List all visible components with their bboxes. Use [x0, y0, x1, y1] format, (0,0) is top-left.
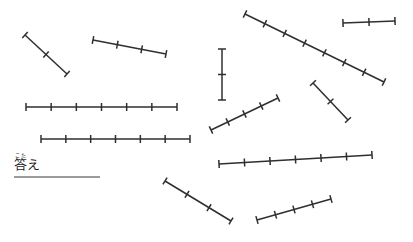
segment-interior-tick [274, 211, 276, 219]
segment-interior-tick [311, 200, 313, 208]
line-segment [343, 17, 395, 27]
line-segment [22, 32, 69, 77]
line-segment [218, 49, 226, 100]
worksheet-canvas: こた 答え [0, 0, 413, 242]
segment-end-tick [330, 195, 332, 203]
segment-interior-tick [293, 206, 295, 214]
segment-end-tick [256, 216, 258, 224]
line-segment [219, 151, 372, 168]
segment-body [165, 181, 231, 221]
line-segment [26, 103, 177, 111]
segment-body [245, 14, 384, 82]
answer-label-block: こた 答え [13, 152, 123, 184]
line-segments-layer [0, 0, 413, 242]
segment-body [93, 40, 166, 54]
segment-interior-tick [141, 45, 143, 53]
segment-interior-tick [185, 191, 189, 198]
segment-interior-tick [207, 204, 211, 211]
line-segment [163, 178, 233, 225]
segment-end-tick [92, 36, 94, 44]
answer-label: 答え [14, 157, 40, 172]
answer-write-line[interactable] [14, 176, 100, 178]
segment-interior-tick [117, 41, 119, 49]
line-segment [41, 135, 190, 143]
line-segment [92, 36, 167, 58]
line-segment [256, 195, 332, 224]
line-segment [310, 80, 351, 122]
segment-end-tick [229, 218, 233, 225]
segment-end-tick [165, 50, 167, 58]
segment-end-tick [163, 178, 167, 185]
